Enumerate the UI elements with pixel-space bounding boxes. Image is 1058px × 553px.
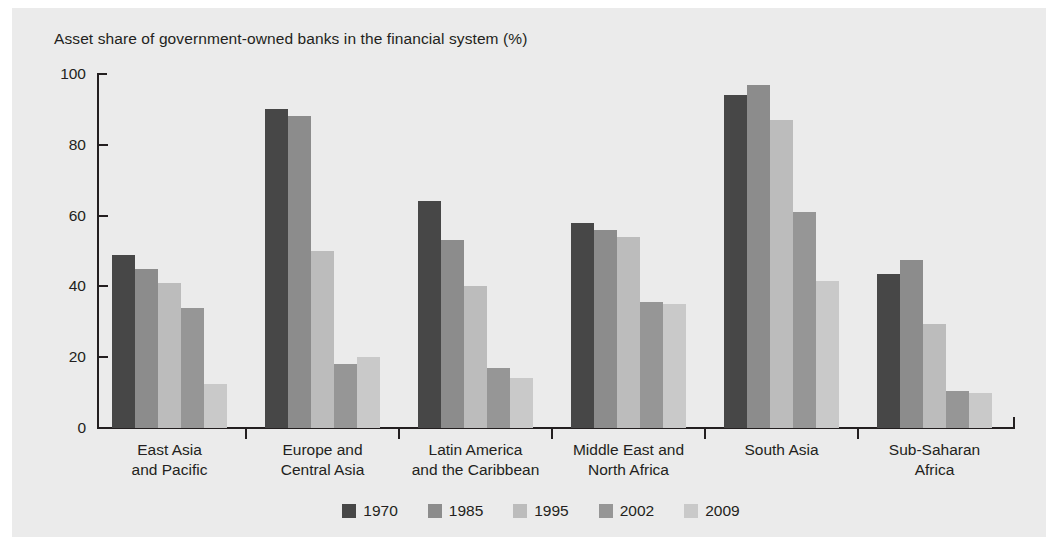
chart-title: Asset share of government-owned banks in… (54, 30, 527, 48)
y-tick-mark (99, 356, 108, 358)
bar-1985[interactable] (288, 116, 311, 428)
legend-item-2009[interactable]: 2009 (684, 502, 739, 520)
bar-group-bars (112, 74, 227, 428)
x-tick-mark (704, 428, 706, 439)
bar-1985[interactable] (594, 230, 617, 428)
y-tick-label: 100 (60, 65, 86, 83)
bar-2009[interactable] (204, 384, 227, 428)
legend-item-1995[interactable]: 1995 (513, 502, 568, 520)
bar-1970[interactable] (571, 223, 594, 428)
y-tick-label: 20 (69, 348, 86, 366)
chart-legend: 19701985199520022009 (12, 502, 1058, 520)
bar-2002[interactable] (640, 302, 663, 428)
bar-2009[interactable] (663, 304, 686, 428)
legend-item-2002[interactable]: 2002 (599, 502, 654, 520)
bar-1985[interactable] (441, 240, 464, 428)
bar-1970[interactable] (724, 95, 747, 428)
bar-group (877, 74, 992, 428)
y-axis-line (97, 73, 99, 429)
y-tick-mark (99, 285, 108, 287)
bar-1995[interactable] (464, 286, 487, 428)
y-tick-mark (99, 144, 108, 146)
legend-swatch-icon (342, 504, 356, 518)
x-axis-right-cap (1013, 417, 1015, 429)
bar-1985[interactable] (900, 260, 923, 428)
bar-1995[interactable] (617, 237, 640, 428)
legend-label: 2009 (705, 502, 739, 520)
y-tick-label: 0 (77, 419, 86, 437)
y-tick-label: 60 (69, 207, 86, 225)
bar-2009[interactable] (969, 393, 992, 428)
x-tick-mark (245, 428, 247, 439)
x-tick-mark (857, 428, 859, 439)
legend-swatch-icon (599, 504, 613, 518)
y-tick-mark (99, 215, 108, 217)
chart-panel: Asset share of government-owned banks in… (12, 8, 1046, 537)
bar-2009[interactable] (816, 281, 839, 428)
bar-group-bars (265, 74, 380, 428)
legend-swatch-icon (513, 504, 527, 518)
bar-1995[interactable] (770, 120, 793, 428)
bar-group-bars (418, 74, 533, 428)
bar-1970[interactable] (877, 274, 900, 428)
bar-1985[interactable] (747, 85, 770, 428)
bar-2002[interactable] (487, 368, 510, 428)
legend-swatch-icon (684, 504, 698, 518)
bar-1985[interactable] (135, 269, 158, 428)
bar-group-bars (571, 74, 686, 428)
legend-swatch-icon (428, 504, 442, 518)
bar-1970[interactable] (418, 201, 441, 428)
legend-label: 1985 (449, 502, 483, 520)
bar-group (265, 74, 380, 428)
bar-1995[interactable] (158, 283, 181, 428)
bar-group (418, 74, 533, 428)
bar-1970[interactable] (112, 255, 135, 428)
legend-item-1970[interactable]: 1970 (342, 502, 397, 520)
x-category-label: Sub-Saharan Africa (837, 440, 1032, 480)
bar-2002[interactable] (334, 364, 357, 428)
bar-1995[interactable] (311, 251, 334, 428)
bar-group (112, 74, 227, 428)
legend-item-1985[interactable]: 1985 (428, 502, 483, 520)
bar-group-bars (877, 74, 992, 428)
x-tick-mark (398, 428, 400, 439)
bar-2009[interactable] (510, 378, 533, 428)
x-tick-mark (551, 428, 553, 439)
bar-group (724, 74, 839, 428)
bar-group (571, 74, 686, 428)
y-tick-label: 40 (69, 277, 86, 295)
bar-2002[interactable] (181, 308, 204, 428)
legend-label: 1970 (363, 502, 397, 520)
bar-1995[interactable] (923, 324, 946, 428)
chart-figure: Asset share of government-owned banks in… (0, 0, 1058, 553)
y-axis-top-cap (97, 73, 107, 75)
bar-2009[interactable] (357, 357, 380, 428)
bar-2002[interactable] (946, 391, 969, 428)
legend-label: 1995 (534, 502, 568, 520)
bar-1970[interactable] (265, 109, 288, 428)
legend-label: 2002 (620, 502, 654, 520)
bar-group-bars (724, 74, 839, 428)
y-tick-label: 80 (69, 136, 86, 154)
bar-2002[interactable] (793, 212, 816, 428)
